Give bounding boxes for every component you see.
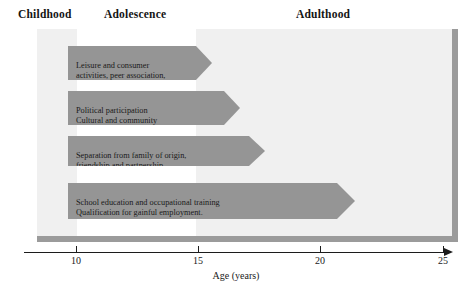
phase-label-adulthood: Adulthood bbox=[296, 8, 350, 20]
x-axis-tick-label-15: 15 bbox=[193, 255, 203, 266]
x-axis-tick-20 bbox=[320, 246, 321, 253]
x-axis-line bbox=[24, 252, 448, 253]
phase-label-childhood: Childhood bbox=[18, 8, 72, 20]
x-axis-tick-15 bbox=[198, 246, 199, 253]
plot-right-rail bbox=[452, 29, 458, 242]
developmental-tasks-chart: Childhood Adolescence Adulthood Leisure … bbox=[0, 0, 472, 288]
x-axis-tick-label-20: 20 bbox=[315, 255, 325, 266]
task-bar-leisure: Leisure and consumer activities, peer as… bbox=[68, 46, 212, 80]
task-bar-school-label: School education and occupational traini… bbox=[76, 198, 355, 219]
x-axis-tick-25 bbox=[443, 246, 444, 253]
x-axis-tick-10 bbox=[76, 246, 77, 253]
x-axis-tick-label-10: 10 bbox=[71, 255, 81, 266]
task-bar-leisure-label: Leisure and consumer activities, peer as… bbox=[76, 61, 212, 93]
plot-bottom-rail bbox=[37, 236, 458, 242]
task-bar-political: Political participation Cultural and com… bbox=[68, 91, 240, 125]
phase-label-adolescence: Adolescence bbox=[104, 8, 166, 20]
task-bar-school: School education and occupational traini… bbox=[68, 183, 355, 219]
x-axis-title: Age (years) bbox=[0, 270, 472, 281]
task-bar-separation: Separation from family of origin, friend… bbox=[68, 136, 265, 166]
x-axis-tick-label-25: 25 bbox=[438, 255, 448, 266]
